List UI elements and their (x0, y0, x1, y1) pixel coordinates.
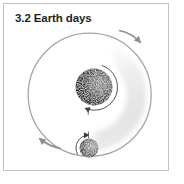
orbit-diagram (0, 0, 184, 184)
planet-body (76, 69, 113, 106)
orbit-direction-arrow-bottom-left (40, 139, 62, 149)
moon-body (80, 139, 99, 158)
orbit-direction-arrow-top-right (119, 31, 141, 43)
figure-canvas: 3.2 Earth days (0, 0, 184, 184)
